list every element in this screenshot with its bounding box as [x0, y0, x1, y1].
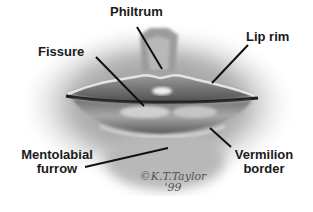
label-vermilion-border: Vermilion border	[230, 148, 298, 176]
label-philtrum: Philtrum	[110, 5, 163, 19]
signature-year: '99	[138, 182, 208, 193]
label-mentolabial-line1: Mentolabial	[14, 148, 100, 162]
label-mentolabial-furrow: Mentolabial furrow	[14, 148, 100, 176]
label-fissure: Fissure	[38, 45, 84, 59]
label-vermilion-line2: border	[230, 162, 298, 176]
label-lip-rim: Lip rim	[246, 30, 289, 44]
label-vermilion-line1: Vermilion	[230, 148, 298, 162]
artist-signature: ©K.T.Taylor '99	[138, 171, 208, 193]
label-mentolabial-line2: furrow	[14, 162, 100, 176]
